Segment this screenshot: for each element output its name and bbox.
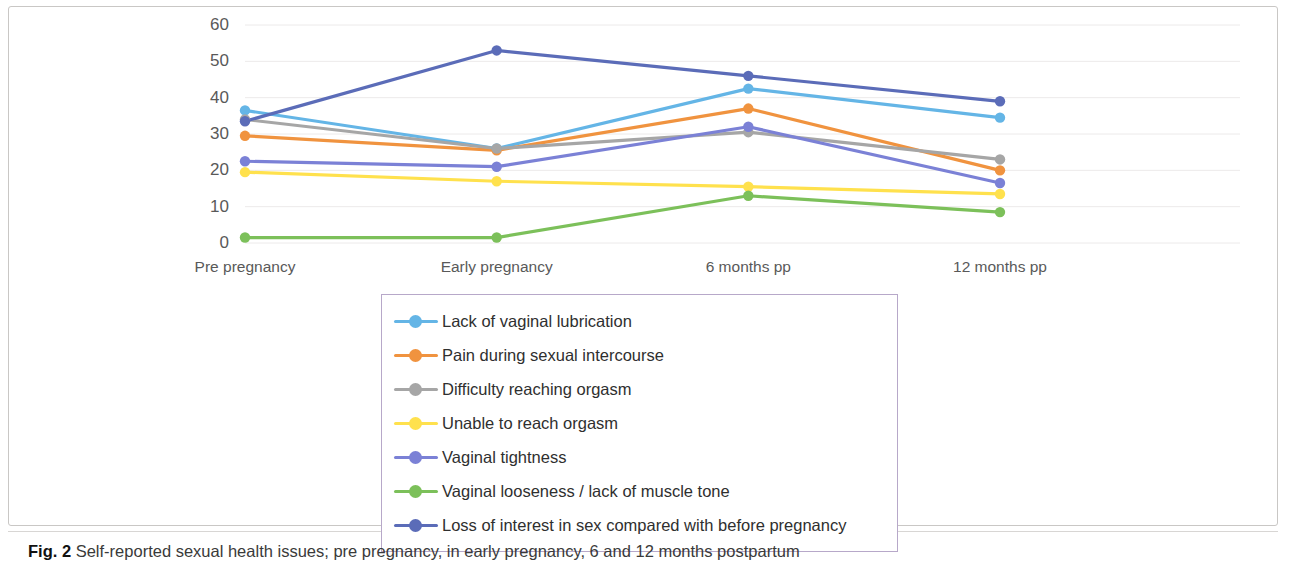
legend-marker-dot bbox=[409, 417, 422, 430]
legend-color-swatch bbox=[394, 517, 438, 533]
y-axis-tick-label: 60 bbox=[189, 16, 229, 33]
legend-label: Unable to reach orgasm bbox=[442, 414, 618, 433]
legend-item: Difficulty reaching orgasm bbox=[394, 372, 887, 406]
legend-marker-dot bbox=[409, 315, 422, 328]
x-axis-tick-label: Early pregnancy bbox=[397, 258, 597, 276]
chart-data-point bbox=[491, 45, 501, 55]
legend-item: Lack of vaginal lubrication bbox=[394, 304, 887, 338]
legend-label: Difficulty reaching orgasm bbox=[442, 380, 632, 399]
chart-data-point bbox=[491, 232, 501, 242]
y-axis-tick-label: 50 bbox=[189, 52, 229, 69]
chart-data-point bbox=[743, 181, 753, 191]
figure-caption-text: Self-reported sexual health issues; pre … bbox=[76, 542, 800, 560]
chart-data-point bbox=[995, 189, 1005, 199]
y-axis-tick-label: 20 bbox=[189, 161, 229, 178]
chart-data-point bbox=[995, 165, 1005, 175]
legend-color-swatch bbox=[394, 483, 438, 499]
figure-caption: Fig. 2 Self-reported sexual health issue… bbox=[28, 540, 1258, 562]
legend-item: Pain during sexual intercourse bbox=[394, 338, 887, 372]
chart-data-point bbox=[743, 122, 753, 132]
chart-data-point bbox=[240, 232, 250, 242]
legend-color-swatch bbox=[394, 347, 438, 363]
chart-data-point bbox=[240, 156, 250, 166]
chart-data-point bbox=[240, 167, 250, 177]
chart-data-point bbox=[240, 116, 250, 126]
legend-color-swatch bbox=[394, 449, 438, 465]
figure-container: 0102030405060 Pre pregnancyEarly pregnan… bbox=[0, 0, 1294, 577]
chart-data-point bbox=[743, 83, 753, 93]
legend-marker-dot bbox=[409, 485, 422, 498]
chart-series-line bbox=[245, 127, 1000, 183]
chart-data-point bbox=[995, 112, 1005, 122]
chart-data-point bbox=[491, 162, 501, 172]
chart-data-point bbox=[491, 143, 501, 153]
chart-data-point bbox=[995, 154, 1005, 164]
chart-data-point bbox=[743, 71, 753, 81]
legend-item: Vaginal tightness bbox=[394, 440, 887, 474]
chart-plot-area: 0102030405060 Pre pregnancyEarly pregnan… bbox=[0, 0, 1294, 292]
figure-label: Fig. 2 bbox=[28, 542, 71, 560]
legend-marker-dot bbox=[409, 349, 422, 362]
legend-marker-dot bbox=[409, 451, 422, 464]
y-axis-tick-label: 10 bbox=[189, 198, 229, 215]
legend-color-swatch bbox=[394, 415, 438, 431]
chart-series-line bbox=[245, 196, 1000, 238]
legend-label: Vaginal looseness / lack of muscle tone bbox=[442, 482, 730, 501]
legend-item: Loss of interest in sex compared with be… bbox=[394, 508, 887, 542]
chart-data-point bbox=[491, 176, 501, 186]
chart-data-point bbox=[995, 207, 1005, 217]
legend-label: Pain during sexual intercourse bbox=[442, 346, 664, 365]
chart-series-line bbox=[245, 119, 1000, 159]
chart-legend: Lack of vaginal lubricationPain during s… bbox=[381, 294, 898, 552]
chart-data-point bbox=[240, 131, 250, 141]
legend-marker-dot bbox=[409, 519, 422, 532]
chart-data-point bbox=[995, 96, 1005, 106]
chart-data-point bbox=[743, 103, 753, 113]
x-axis-tick-label: 6 months pp bbox=[648, 258, 848, 276]
x-axis-tick-label: Pre pregnancy bbox=[145, 258, 345, 276]
legend-item: Unable to reach orgasm bbox=[394, 406, 887, 440]
legend-item: Vaginal looseness / lack of muscle tone bbox=[394, 474, 887, 508]
legend-marker-dot bbox=[409, 383, 422, 396]
y-axis-tick-label: 30 bbox=[189, 125, 229, 142]
chart-series-line bbox=[245, 172, 1000, 194]
chart-data-point bbox=[743, 191, 753, 201]
y-axis-tick-label: 40 bbox=[189, 89, 229, 106]
legend-label: Vaginal tightness bbox=[442, 448, 566, 467]
legend-label: Lack of vaginal lubrication bbox=[442, 312, 632, 331]
x-axis-tick-label: 12 months pp bbox=[900, 258, 1100, 276]
chart-data-point bbox=[240, 105, 250, 115]
y-axis-tick-label: 0 bbox=[189, 234, 229, 251]
chart-series-group bbox=[245, 50, 1000, 237]
legend-color-swatch bbox=[394, 313, 438, 329]
legend-color-swatch bbox=[394, 381, 438, 397]
chart-data-point bbox=[995, 178, 1005, 188]
legend-label: Loss of interest in sex compared with be… bbox=[442, 516, 846, 535]
